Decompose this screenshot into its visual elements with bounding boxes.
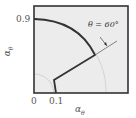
y-axis-label: αθ — [3, 47, 14, 57]
y-axis-symbol: α — [2, 50, 12, 56]
x-tick-label-0: 0 — [31, 97, 37, 106]
x-axis-label: αθ — [75, 105, 85, 116]
y-tick-label: 0.9 — [16, 15, 30, 24]
x-axis-subscript: θ — [81, 109, 85, 116]
y-axis-subscript: θ — [7, 47, 14, 51]
x-tick-label-1: 0.1 — [49, 97, 63, 106]
theta-annotation: θ = 60° — [88, 21, 119, 29]
